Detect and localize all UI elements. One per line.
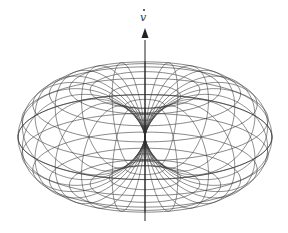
axis-arrowhead [142,28,149,38]
meridian-line [22,94,145,191]
axis-label: v [140,11,146,24]
radiation-pattern-figure [0,0,288,233]
meridian-line [145,82,268,179]
